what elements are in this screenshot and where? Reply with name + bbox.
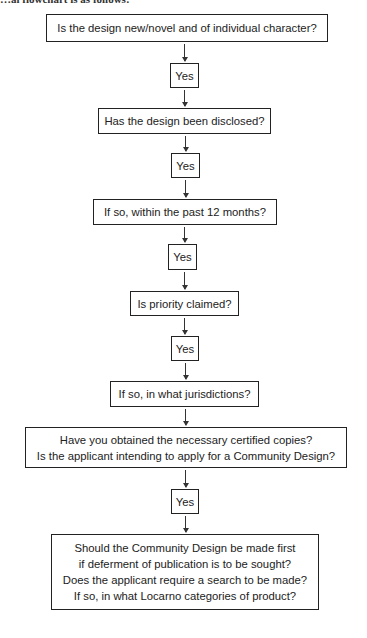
node-text: Yes <box>176 494 194 510</box>
node-text: Yes <box>176 341 194 357</box>
node-text-line: Does the applicant require a search to b… <box>63 572 307 588</box>
node-community-design-question: Should the Community Design be made firs… <box>51 534 319 610</box>
node-text-line: if deferment of publication is to be sou… <box>79 556 291 572</box>
arrow-connector <box>185 470 186 487</box>
node-text: Is priority claimed? <box>137 296 231 312</box>
arrow-connector <box>184 227 185 242</box>
node-jurisdictions-question: If so, in what jurisdictions? <box>110 381 259 407</box>
node-disclosed-question: Has the design been disclosed? <box>98 108 271 134</box>
node-yes-answer: Yes <box>170 63 199 88</box>
node-text: If so, within the past 12 months? <box>104 204 266 220</box>
node-text-line: Is the applicant intending to apply for … <box>37 448 335 464</box>
arrow-connector <box>184 318 185 334</box>
node-yes-answer: Yes <box>171 153 200 178</box>
arrow-connector <box>185 409 186 425</box>
node-yes-answer: Yes <box>168 244 197 270</box>
arrow-connector <box>184 90 185 106</box>
arrow-connector <box>185 516 186 532</box>
node-text: Yes <box>176 158 194 174</box>
arrow-connector <box>185 363 186 379</box>
node-12-months-question: If so, within the past 12 months? <box>93 199 277 225</box>
node-text: Has the design been disclosed? <box>104 113 264 129</box>
node-text: Yes <box>173 249 191 265</box>
arrow-connector <box>185 136 186 151</box>
arrow-connector <box>185 180 186 197</box>
arrow-connector <box>184 44 185 61</box>
node-text-line: Have you obtained the necessary certifie… <box>60 432 312 448</box>
node-yes-answer: Yes <box>171 336 199 361</box>
arrow-connector <box>184 272 185 289</box>
node-priority-question: Is priority claimed? <box>130 291 239 316</box>
node-text: Yes <box>175 68 193 84</box>
node-design-novel-question: Is the design new/novel and of individua… <box>46 14 328 42</box>
node-text: Is the design new/novel and of individua… <box>57 20 316 36</box>
node-yes-answer: Yes <box>171 489 199 514</box>
node-text-line: Should the Community Design be made firs… <box>74 540 295 556</box>
intro-text-cut-off: …al flowchart is as follows: <box>0 0 130 5</box>
node-certified-copies-question: Have you obtained the necessary certifie… <box>25 427 347 468</box>
node-text: If so, in what jurisdictions? <box>119 386 251 402</box>
node-text-line: If so, in what Locarno categories of pro… <box>74 588 296 604</box>
